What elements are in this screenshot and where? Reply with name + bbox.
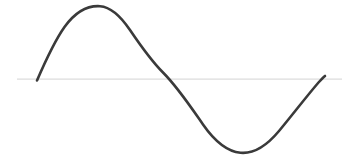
figure-background bbox=[0, 0, 355, 167]
figure-container bbox=[0, 0, 355, 167]
sine-wave-figure bbox=[0, 0, 355, 167]
